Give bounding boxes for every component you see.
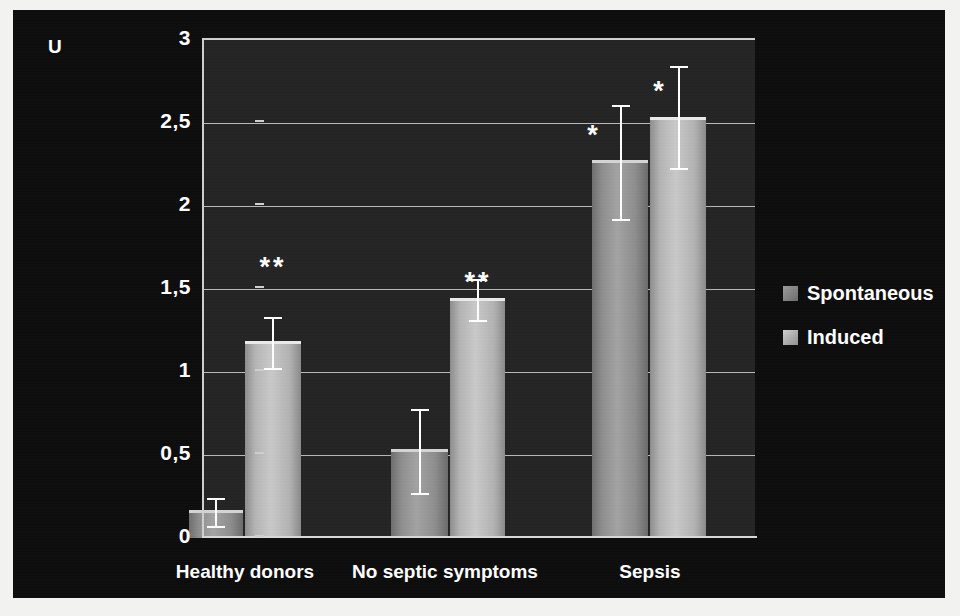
errorbar-cap-bottom [411,493,429,495]
significance-noseptic-induced: ** [464,269,491,296]
errorbar-healthy-induced [272,317,274,370]
errorbar-noseptic-spontaneous [419,409,421,495]
errorbar-cap-bottom [469,320,487,322]
errorbar-cap-top [670,66,688,68]
errorbar-sepsis-induced [678,66,680,170]
errorbar-cap-bottom [264,368,282,370]
ytick-label-1.5: 1,5 [160,275,191,299]
legend-swatch-icon [783,286,798,301]
ytick-label-0.5: 0,5 [160,441,191,465]
category-label-healthy-donors: Healthy donors [176,561,314,583]
bar-sepsis-induced [650,117,706,538]
category-label-sepsis: Sepsis [619,561,680,583]
errorbar-sepsis-spontaneous [620,105,622,221]
ytick-mark-2 [255,203,264,205]
chart-canvas: ** ** * [13,10,945,598]
bar-healthy-induced [245,341,301,538]
legend: Spontaneous Induced [783,280,934,368]
y-axis-tick-labels: 3 2,5 2 1,5 1 0,5 0 [73,10,191,598]
ytick-label-2.5: 2,5 [160,109,191,133]
errorbar-cap-bottom [612,219,630,221]
legend-label-spontaneous: Spontaneous [807,282,934,305]
legend-item-spontaneous[interactable]: Spontaneous [783,280,934,306]
ytick-mark-0 [255,535,264,537]
significance-sepsis-induced: * [653,78,667,105]
x-axis-line [202,536,757,538]
plot-area: ** ** * [202,38,755,538]
ytick-mark-0.5 [255,452,264,454]
significance-sepsis-spontaneous: * [587,122,601,149]
ytick-label-1: 1 [179,358,191,382]
errorbar-cap-top [264,317,282,319]
bar-noseptic-induced [450,298,505,538]
ytick-mark-1.5 [255,286,264,288]
legend-swatch-icon [783,330,798,345]
significance-healthy-induced: ** [259,254,286,281]
ytick-label-3: 3 [179,26,191,50]
ytick-label-2: 2 [179,192,191,216]
errorbar-cap-top [411,409,429,411]
category-label-no-septic-symptoms: No septic symptoms [352,561,538,583]
y-axis-title: U [48,36,62,58]
ytick-mark-1 [255,369,264,371]
legend-label-induced: Induced [807,326,884,349]
errorbar-cap-bottom [207,526,225,528]
figure-container: ** ** * [0,0,960,616]
errorbar-cap-top [612,105,630,107]
ytick-mark-2.5 [255,120,264,122]
y-axis-line [202,38,204,538]
errorbar-cap-top [207,498,225,500]
legend-item-induced[interactable]: Induced [783,324,934,350]
errorbar-cap-bottom [670,168,688,170]
ytick-label-0: 0 [179,524,191,548]
errorbar-healthy-spontaneous [215,498,217,528]
